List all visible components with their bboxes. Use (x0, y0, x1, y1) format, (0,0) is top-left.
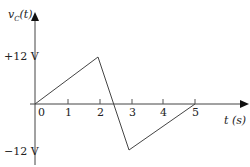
x-axis-arrow-icon (240, 100, 249, 108)
waveform-plot (0, 0, 250, 167)
xtick-4: 4 (160, 106, 167, 119)
xtick-0: 0 (38, 106, 45, 119)
ytick-pos: +12 V (4, 50, 39, 63)
x-axis-label: t (s) (224, 114, 246, 127)
xtick-3: 3 (129, 106, 136, 119)
waveform-diagram: vC(t) +12 V −12 V 0 1 2 3 4 5 t (s) (0, 0, 250, 167)
xtick-2: 2 (97, 106, 104, 119)
xtick-5: 5 (192, 106, 199, 119)
y-axis-label: vC(t) (8, 8, 33, 23)
ytick-neg: −12 V (4, 145, 39, 158)
xtick-1: 1 (65, 106, 72, 119)
x-ticks (68, 99, 195, 104)
